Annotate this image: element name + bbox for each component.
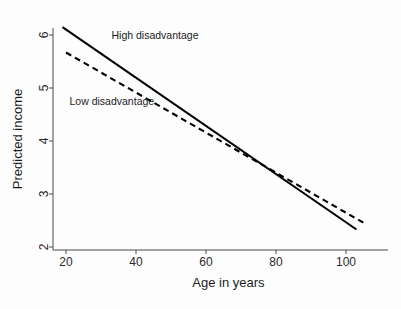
series-line-low-disadvantage: [66, 52, 367, 224]
x-axis-title: Age in years: [192, 275, 265, 290]
y-tick-label: 2: [37, 243, 51, 250]
y-tick-label: 4: [37, 137, 51, 144]
y-axis-ticks: 23456: [37, 31, 53, 250]
x-tick-label: 60: [199, 255, 213, 269]
y-tick-label: 3: [37, 190, 51, 197]
x-tick-label: 100: [336, 255, 356, 269]
y-axis-title: Predicted income: [10, 89, 25, 189]
x-tick-label: 40: [129, 255, 143, 269]
line-chart: 23456 20406080100 High disadvantageLow d…: [0, 0, 401, 309]
series-annotations: High disadvantageLow disadvantage: [70, 29, 199, 107]
series-label-low-disadvantage: Low disadvantage: [70, 95, 155, 107]
y-tick-label: 6: [37, 31, 51, 38]
data-series-group: [63, 27, 368, 229]
chart-figure: 23456 20406080100 High disadvantageLow d…: [0, 0, 401, 309]
x-tick-label: 20: [59, 255, 73, 269]
x-axis-ticks: 20406080100: [59, 250, 356, 269]
series-label-high-disadvantage: High disadvantage: [112, 29, 199, 41]
x-tick-label: 80: [269, 255, 283, 269]
y-tick-label: 5: [37, 84, 51, 91]
series-line-high-disadvantage: [63, 27, 357, 229]
